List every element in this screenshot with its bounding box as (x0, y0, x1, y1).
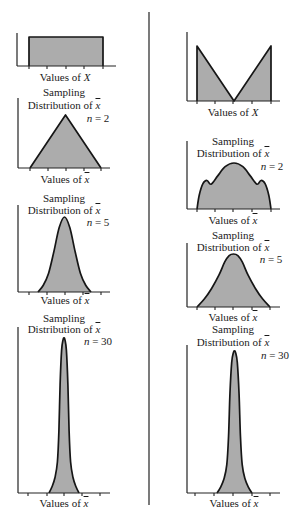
distribution-area (197, 46, 271, 101)
left-n5-xlabel: Values of x (41, 294, 90, 306)
right-population-xlabel: Values of X (208, 106, 259, 118)
xlabel-text: Values of (40, 497, 81, 509)
right-n5-title-line1: Sampling (212, 229, 254, 241)
right-n2-title-line2: Distribution of x (197, 147, 270, 159)
xlabel-text: Values of (209, 214, 250, 226)
n-value: = 2 (95, 112, 109, 124)
title-text: Distribution of (197, 336, 262, 348)
left-n30-xlabel: Values of x (40, 497, 89, 509)
n-value: = 5 (95, 216, 109, 228)
sample-mean-variable: x (95, 323, 100, 335)
title-text: Distribution of (197, 147, 262, 159)
n-variable: n (261, 349, 267, 361)
xlabel-text: Values of (40, 71, 81, 83)
sample-mean-variable: x (95, 99, 100, 111)
distribution-area (29, 37, 103, 66)
xlabel-text: Values of (209, 311, 250, 323)
left-population-xlabel: Values of X (40, 71, 91, 83)
right-n2-sample-size-label: n = 2 (261, 160, 284, 172)
right-n2-xlabel: Values of x (209, 214, 258, 226)
right-n30-title-line1: Sampling (212, 323, 254, 335)
right-n30-sample-size-label: n = 30 (261, 349, 289, 361)
n-value: = 30 (92, 335, 112, 347)
n-value: = 2 (269, 160, 283, 172)
left-n2-title-line1: Sampling (43, 86, 85, 98)
xlabel-text: Values of (208, 106, 249, 118)
distribution-area (217, 351, 252, 493)
title-text: Distribution of (28, 323, 93, 335)
left-n2-sample-size-label: n = 2 (87, 112, 110, 124)
n-variable: n (87, 112, 93, 124)
xlabel-text: Values of (41, 173, 82, 185)
sample-mean-variable: x (264, 241, 269, 253)
clt-figure: Values of X Sampling Distribution of x n… (0, 0, 297, 525)
sample-mean-variable: x (84, 497, 89, 509)
sample-mean-variable: x (264, 336, 269, 348)
left-sampling-n30-chart (18, 327, 110, 496)
right-n2-title-line1: Sampling (212, 135, 254, 147)
right-n30-xlabel: Values of x (210, 497, 259, 509)
xlabel-text: Values of (41, 294, 82, 306)
left-n30-sample-size-label: n = 30 (84, 335, 112, 347)
sample-mean-variable: x (254, 497, 259, 509)
sample-mean-variable: x (85, 173, 90, 185)
right-n5-sample-size-label: n = 5 (260, 253, 283, 265)
n-variable: n (261, 160, 267, 172)
right-n30-title-line2: Distribution of x (197, 336, 270, 348)
title-text: Distribution of (28, 204, 93, 216)
left-n5-title-line1: Sampling (43, 192, 85, 204)
left-population-uniform-chart (17, 33, 116, 69)
population-variable: X (252, 106, 259, 118)
xlabel-text: Values of (210, 497, 251, 509)
n-value: = 5 (268, 253, 282, 265)
sample-mean-variable: x (95, 204, 100, 216)
sample-mean-variable: x (253, 311, 258, 323)
left-n2-xlabel: Values of x (41, 173, 90, 185)
sample-mean-variable: x (253, 214, 258, 226)
right-population-v-chart (187, 32, 280, 104)
left-n2-title-line2: Distribution of x (28, 99, 101, 111)
population-variable: X (84, 71, 91, 83)
right-n5-title-line2: Distribution of x (197, 241, 270, 253)
left-n5-title-line2: Distribution of x (28, 204, 101, 216)
left-n30-title-line2: Distribution of x (28, 323, 101, 335)
title-text: Distribution of (28, 99, 93, 111)
right-n5-xlabel: Values of x (209, 311, 258, 323)
n-value: = 30 (269, 349, 289, 361)
distribution-area (49, 338, 79, 493)
left-n5-sample-size-label: n = 5 (87, 216, 110, 228)
title-text: Distribution of (197, 241, 262, 253)
right-sampling-n30-chart (187, 345, 280, 496)
sample-mean-variable: x (264, 147, 269, 159)
n-variable: n (260, 253, 266, 265)
n-variable: n (84, 335, 90, 347)
sample-mean-variable: x (85, 294, 90, 306)
n-variable: n (87, 216, 93, 228)
